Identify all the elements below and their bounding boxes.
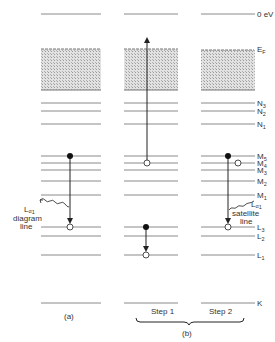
- level-labels: 0 eV EF N3 N2 N1 M5 M4 M3 M2 M1 L3 L2 L1…: [257, 10, 274, 308]
- transition-diagram-line: [40, 153, 73, 230]
- svg-text:line: line: [240, 217, 253, 226]
- filled-electron-icon: [67, 153, 73, 159]
- label-m2: M2: [257, 177, 267, 187]
- label-l2: L2: [257, 232, 265, 242]
- label-fermi: EF: [257, 45, 266, 55]
- valence-band-step2: [201, 50, 255, 90]
- label-n1: N1: [257, 120, 266, 130]
- svg-text:line: line: [20, 222, 33, 231]
- caption-step2: Step 2: [209, 307, 233, 316]
- photon-wave-icon: [40, 199, 69, 208]
- label-k: K: [257, 299, 263, 308]
- hole-icon: [235, 160, 241, 166]
- label-m1: M1: [257, 191, 267, 201]
- valence-band-a: [41, 49, 101, 90]
- valence-band-step1: [124, 49, 178, 90]
- caption-step1: Step 1: [151, 307, 175, 316]
- diagram-line-label: Lα1 diagram line: [13, 205, 42, 231]
- energy-level-diagram: 0 eV EF N3 N2 N1 M5 M4 M3 M2 M1 L3 L2 L1…: [0, 0, 275, 342]
- group-brace: [136, 318, 244, 325]
- hole-icon: [143, 252, 149, 258]
- caption-a: (a): [64, 312, 74, 321]
- filled-electron-icon: [225, 153, 231, 159]
- filled-electron-icon: [143, 224, 149, 230]
- label-l1: L1: [257, 251, 265, 261]
- hole-icon: [225, 224, 231, 230]
- caption-b: (b): [182, 329, 192, 338]
- hole-icon: [144, 160, 150, 166]
- label-vacuum: 0 eV: [257, 10, 274, 19]
- hole-icon: [67, 224, 73, 230]
